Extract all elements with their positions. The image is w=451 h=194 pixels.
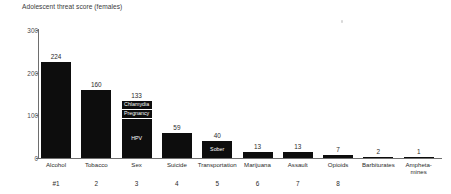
bar-value-label: 1 — [404, 148, 434, 155]
rank-label: 2 — [76, 180, 116, 187]
y-axis-tick-mark — [36, 158, 38, 159]
bar[interactable] — [323, 155, 353, 158]
bar-chart: Adolescent threat score (females) 300200… — [0, 0, 451, 194]
rank-label: 7 — [278, 180, 318, 187]
y-axis-tick-label: 100 — [12, 112, 38, 119]
rank-label: 5 — [197, 180, 237, 187]
y-axis-tick-mark — [36, 115, 38, 116]
bar[interactable]: ChlamydiaPregnancyHPV — [122, 101, 152, 158]
x-axis-line — [38, 158, 442, 159]
bar-segment-text: Sober — [210, 147, 224, 152]
bar-segment-label: Pregnancy — [122, 109, 152, 118]
bar-value-label: 13 — [283, 143, 313, 150]
bar-value-label: 2 — [363, 148, 393, 155]
bar[interactable] — [363, 157, 393, 158]
bar-rect — [162, 133, 192, 158]
bar-segment-text: HPV — [131, 136, 142, 141]
bar-rect — [283, 152, 313, 158]
rank-label: 3 — [117, 180, 157, 187]
bar-value-label: 160 — [81, 81, 111, 88]
bar-rect — [243, 152, 273, 158]
bar-segment-label: HPV — [122, 118, 152, 158]
rank-label: 4 — [157, 180, 197, 187]
rank-label: #1 — [36, 180, 76, 187]
bar-value-label: 7 — [323, 146, 353, 153]
bar[interactable] — [404, 157, 434, 158]
rank-label: 8 — [318, 180, 358, 187]
bar-value-label: 40 — [202, 132, 232, 139]
bar-value-label: 224 — [41, 53, 71, 60]
bar[interactable] — [283, 152, 313, 158]
bar-rect: Sober — [202, 141, 232, 158]
bar-segment-label: Chlamydia — [122, 101, 152, 109]
bar[interactable] — [243, 152, 273, 158]
y-axis-tick-label: 200 — [12, 69, 38, 76]
y-axis-tick-mark — [36, 30, 38, 31]
image-artifact-speck — [341, 20, 343, 23]
bar-rect — [41, 62, 71, 158]
bar-segment-text: Pregnancy — [124, 111, 149, 116]
y-axis-line — [38, 29, 39, 159]
bar-value-label: 133 — [122, 92, 152, 99]
bar-rect — [81, 90, 111, 158]
bar-segment-label: Sober — [202, 141, 232, 158]
bar-value-label: 59 — [162, 124, 192, 131]
bar-segment-text: Chlamydia — [124, 102, 149, 107]
bar-rect — [404, 157, 434, 158]
bar-value-label: 13 — [243, 143, 273, 150]
rank-label: 6 — [238, 180, 278, 187]
y-axis-tick-mark — [36, 73, 38, 74]
x-axis-category-label: Ampheta-mines — [392, 161, 446, 175]
y-axis-tick-label: 300 — [12, 27, 38, 34]
bar-rect: ChlamydiaPregnancyHPV — [122, 101, 152, 158]
bar[interactable]: Sober — [202, 141, 232, 158]
bar[interactable] — [81, 90, 111, 158]
bar[interactable] — [162, 133, 192, 158]
bar[interactable] — [41, 62, 71, 158]
bar-rect — [363, 157, 393, 158]
bar-rect — [323, 155, 353, 158]
